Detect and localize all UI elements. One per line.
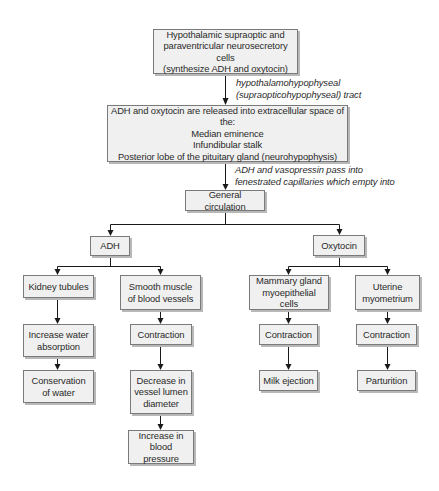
node-pressure: Increase in blood pressure: [128, 430, 194, 464]
node-lumen-text: Decrease in vessel lumen diameter: [134, 375, 188, 410]
node-uterine-contraction-text: Contraction: [363, 329, 410, 341]
node-uterine-contraction: Contraction: [356, 324, 417, 345]
node-mammary-text: Mammary gland myoepithelial cells: [253, 275, 325, 310]
node-release: ADH and oxytocin are released into extra…: [107, 105, 348, 162]
node-sm-contraction: Contraction: [130, 324, 192, 345]
node-kidney-text: Kidney tubules: [28, 281, 88, 293]
node-parturition-text: Parturition: [366, 375, 408, 387]
node-conservation: Conservation of water: [23, 370, 94, 403]
node-smooth-muscle: Smooth muscle of blood vessels: [120, 275, 201, 310]
node-milk: Milk ejection: [259, 370, 318, 391]
node-kidney: Kidney tubules: [23, 275, 94, 298]
node-source: Hypothalamic supraoptic and paraventricu…: [153, 29, 298, 74]
node-circulation-text: General circulation: [189, 189, 261, 212]
node-mammary: Mammary gland myoepithelial cells: [249, 275, 329, 310]
node-adh: ADH: [90, 236, 130, 256]
edge-label-capillaries: ADH and vasopressin pass into fenestrate…: [235, 164, 395, 187]
node-lumen: Decrease in vessel lumen diameter: [130, 370, 192, 414]
edge-label-tract: hypothalamohypophyseal (supraopticohypop…: [236, 77, 361, 100]
node-milk-text: Milk ejection: [263, 375, 313, 387]
node-parturition: Parturition: [357, 370, 416, 391]
node-adh-text: ADH: [100, 240, 120, 252]
node-smooth-muscle-text: Smooth muscle of blood vessels: [128, 281, 194, 304]
node-oxytocin: Oxytocin: [313, 235, 365, 256]
node-pressure-text: Increase in blood pressure: [132, 430, 190, 465]
node-circulation: General circulation: [185, 190, 265, 211]
node-uterine: Uterine myometrium: [355, 275, 420, 310]
node-sm-contraction-text: Contraction: [138, 329, 185, 341]
node-source-text: Hypothalamic supraoptic and paraventricu…: [157, 29, 294, 75]
node-oxytocin-text: Oxytocin: [321, 240, 357, 252]
node-water-absorption-text: Increase water absorption: [28, 329, 88, 352]
node-mammary-contraction-text: Contraction: [265, 329, 312, 341]
node-release-text: ADH and oxytocin are released into extra…: [111, 105, 344, 163]
node-uterine-text: Uterine myometrium: [362, 281, 413, 304]
node-conservation-text: Conservation of water: [31, 375, 85, 398]
node-mammary-contraction: Contraction: [259, 324, 318, 345]
node-water-absorption: Increase water absorption: [23, 324, 94, 357]
